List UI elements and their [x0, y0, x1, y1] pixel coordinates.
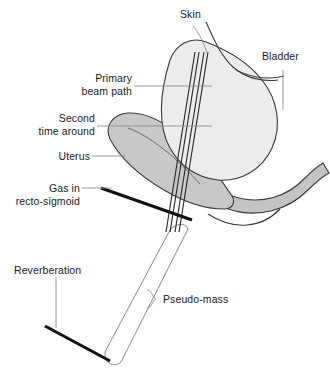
label-primary-beam-path-line2: beam path [0, 85, 132, 98]
label-bladder: Bladder [262, 50, 299, 63]
label-gas-line1: Gas in [0, 182, 80, 195]
reverberation-bar [45, 326, 110, 361]
bladder-shape [161, 40, 277, 180]
label-uterus: Uterus [0, 150, 90, 163]
label-second-time-around-line1: Second [0, 112, 95, 125]
label-reverberation: Reverberation [14, 264, 81, 277]
label-primary-beam-path-line1: Primary [0, 72, 132, 85]
diagram-canvas: Skin Bladder Primary beam path Second ti… [0, 0, 330, 383]
label-skin: Skin [180, 8, 201, 21]
label-gas-line2: recto-sigmoid [0, 195, 80, 208]
label-second-time-around-line2: time around [0, 125, 95, 138]
label-pseudo-mass: Pseudo-mass [163, 293, 228, 306]
